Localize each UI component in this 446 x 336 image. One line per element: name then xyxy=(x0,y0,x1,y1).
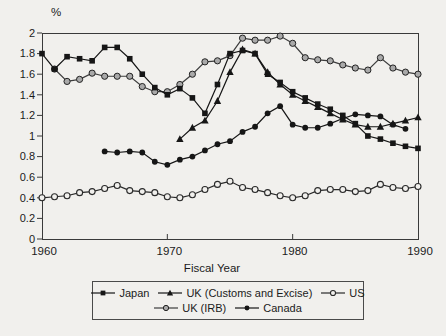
square-marker-icon xyxy=(340,113,346,119)
gray-circle-marker-icon xyxy=(365,67,371,73)
gray-circle-marker-icon xyxy=(164,305,169,310)
open-circle-marker-icon xyxy=(290,195,296,201)
x-tick-label: 1970 xyxy=(157,245,183,257)
square-marker-icon xyxy=(327,106,333,112)
y-tick-label: 1.8 xyxy=(20,47,35,59)
japan-marker-icon xyxy=(91,288,115,298)
canada-marker-icon xyxy=(235,303,259,313)
square-marker-icon xyxy=(102,45,108,51)
y-tick-label: 1.2 xyxy=(20,109,35,121)
uk-irb-marker-icon xyxy=(154,303,178,313)
square-marker-icon xyxy=(390,140,396,146)
square-marker-icon xyxy=(139,71,145,77)
gray-circle-marker-icon xyxy=(290,40,296,46)
square-marker-icon xyxy=(152,85,158,91)
filled-circle-marker-icon xyxy=(114,150,120,156)
square-marker-icon xyxy=(114,45,120,51)
legend-label-canada: Canada xyxy=(263,302,302,314)
gray-circle-marker-icon xyxy=(64,78,70,84)
gray-circle-marker-icon xyxy=(114,73,120,79)
gray-circle-marker-icon xyxy=(102,73,108,79)
gray-circle-marker-icon xyxy=(352,65,358,71)
series-line-japan xyxy=(42,47,418,148)
open-circle-marker-icon xyxy=(265,190,271,196)
open-circle-marker-icon xyxy=(164,194,170,200)
open-circle-marker-icon xyxy=(202,187,208,193)
x-axis-title-text: Fiscal Year xyxy=(184,262,240,274)
gray-circle-marker-icon xyxy=(89,70,95,76)
gray-circle-marker-icon xyxy=(77,76,83,82)
filled-circle-marker-icon xyxy=(252,124,258,130)
open-circle-marker-icon xyxy=(52,194,58,200)
square-marker-icon xyxy=(39,51,45,57)
gray-circle-marker-icon xyxy=(402,69,408,75)
open-circle-marker-icon xyxy=(102,186,108,192)
square-marker-icon xyxy=(77,56,83,62)
square-marker-icon xyxy=(302,95,308,101)
gray-circle-marker-icon xyxy=(239,35,245,41)
square-marker-icon xyxy=(177,86,183,92)
x-tick-label: 1960 xyxy=(31,245,57,257)
open-circle-marker-icon xyxy=(365,188,371,194)
filled-circle-marker-icon xyxy=(139,150,145,156)
filled-circle-marker-icon xyxy=(190,154,196,160)
open-circle-marker-icon xyxy=(64,193,70,199)
gray-circle-marker-icon xyxy=(127,73,133,79)
gray-circle-marker-icon xyxy=(377,55,383,61)
gray-circle-marker-icon xyxy=(315,57,321,63)
filled-circle-marker-icon xyxy=(327,121,333,127)
square-marker-icon xyxy=(202,111,208,117)
filled-circle-marker-icon xyxy=(352,111,358,117)
gray-circle-marker-icon xyxy=(327,58,333,64)
open-circle-marker-icon xyxy=(390,185,396,191)
open-circle-marker-icon xyxy=(39,195,45,201)
x-tick-label: 1980 xyxy=(282,245,308,257)
triangle-marker-icon xyxy=(226,68,233,75)
filled-circle-marker-icon xyxy=(302,125,308,131)
gray-circle-marker-icon xyxy=(189,71,195,77)
square-marker-icon xyxy=(353,121,359,127)
legend-row: JapanUK (Customs and Excise)US xyxy=(95,285,361,300)
series-line-uk-irb xyxy=(55,36,418,92)
open-circle-marker-icon xyxy=(352,189,358,195)
gray-circle-marker-icon xyxy=(202,59,208,65)
open-circle-marker-icon xyxy=(114,182,120,188)
legend-item-uk-irb: UK (IRB) xyxy=(154,302,226,314)
square-marker-icon xyxy=(277,80,283,86)
gray-circle-marker-icon xyxy=(265,37,271,43)
legend-item-us: US xyxy=(321,287,364,299)
filled-circle-marker-icon xyxy=(202,148,208,154)
x-axis-title: Fiscal Year xyxy=(0,262,446,274)
legend-item-japan: Japan xyxy=(91,287,149,299)
square-marker-icon xyxy=(227,51,233,57)
open-circle-marker-icon xyxy=(227,178,233,184)
square-marker-icon xyxy=(415,146,421,152)
open-circle-marker-icon xyxy=(77,190,83,196)
square-marker-icon xyxy=(64,54,70,60)
filled-circle-marker-icon xyxy=(127,149,133,155)
filled-circle-marker-icon xyxy=(265,110,271,116)
triangle-marker-icon xyxy=(201,117,208,124)
square-marker-icon xyxy=(101,290,106,295)
square-marker-icon xyxy=(52,66,58,72)
open-circle-marker-icon xyxy=(127,188,133,194)
open-circle-marker-icon xyxy=(89,189,95,195)
y-tick-label: 0.4 xyxy=(20,192,35,204)
y-tick-label: 0.6 xyxy=(20,171,35,183)
filled-circle-marker-icon xyxy=(164,162,170,168)
filled-circle-marker-icon xyxy=(215,141,221,147)
filled-circle-marker-icon xyxy=(245,305,250,310)
square-marker-icon xyxy=(127,56,133,62)
gray-circle-marker-icon xyxy=(214,58,220,64)
open-circle-marker-icon xyxy=(302,193,308,199)
triangle-marker-icon xyxy=(414,114,421,121)
open-circle-marker-icon xyxy=(214,181,220,187)
filled-circle-marker-icon xyxy=(152,159,158,165)
open-circle-marker-icon xyxy=(252,187,258,193)
square-marker-icon xyxy=(252,51,258,57)
us-marker-icon xyxy=(321,288,345,298)
square-marker-icon xyxy=(190,95,196,101)
y-tick-label: 1.4 xyxy=(20,89,35,101)
square-marker-icon xyxy=(165,92,171,98)
square-marker-icon xyxy=(240,48,246,54)
